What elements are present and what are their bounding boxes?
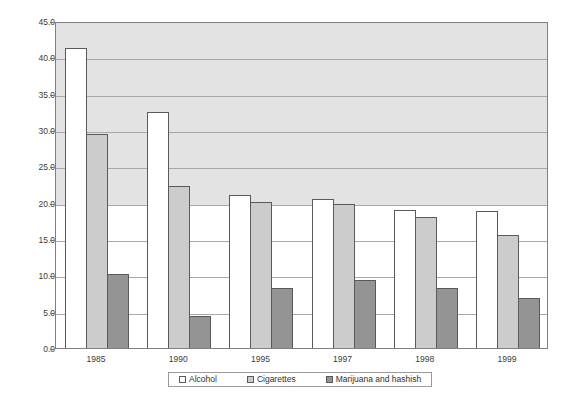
y-axis-tick-label: 10.0 xyxy=(11,272,55,281)
x-axis-tick-label: 1985 xyxy=(87,355,106,364)
y-axis-tick-label: 15.0 xyxy=(11,236,55,245)
y-axis-tick-mark xyxy=(50,22,54,23)
bar-group xyxy=(467,23,548,348)
bar xyxy=(86,134,108,348)
x-axis-tick-label: 1990 xyxy=(169,355,188,364)
legend-label: Marijuana and hashish xyxy=(336,375,422,384)
y-axis-tick-label: 45.0 xyxy=(11,18,55,27)
bar-group xyxy=(220,23,302,348)
legend-swatch-icon xyxy=(247,376,254,383)
bar xyxy=(147,112,169,348)
y-axis-tick-label: 20.0 xyxy=(11,200,55,209)
bar xyxy=(189,316,211,348)
bar xyxy=(168,186,190,348)
x-axis-tick-label: 1995 xyxy=(251,355,270,364)
bar xyxy=(333,204,355,348)
bar xyxy=(497,235,519,348)
legend-item[interactable]: Marijuana and hashish xyxy=(326,375,422,384)
y-axis-tick-mark xyxy=(50,349,54,350)
chart-legend: AlcoholCigarettesMarijuana and hashish xyxy=(168,372,432,387)
y-axis-tick-label: 40.0 xyxy=(11,54,55,63)
bar-group xyxy=(303,23,385,348)
y-axis-tick-mark xyxy=(50,204,54,205)
legend-swatch-icon xyxy=(326,376,333,383)
bar xyxy=(312,199,334,348)
y-axis-tick-mark xyxy=(50,95,54,96)
y-axis-tick-label: 30.0 xyxy=(11,127,55,136)
bar xyxy=(107,274,129,348)
y-axis-tick-mark xyxy=(50,58,54,59)
x-axis-tick-label: 1999 xyxy=(497,355,516,364)
legend-item[interactable]: Alcohol xyxy=(179,375,217,384)
bar xyxy=(415,217,437,348)
legend-swatch-icon xyxy=(179,376,186,383)
bar xyxy=(476,211,498,348)
x-axis-tick-label: 1997 xyxy=(333,355,352,364)
legend-label: Cigarettes xyxy=(257,375,296,384)
bar-group xyxy=(385,23,467,348)
y-axis-tick-mark xyxy=(50,131,54,132)
bar-chart: 0.05.010.015.020.025.030.035.040.045.0 1… xyxy=(0,0,562,404)
y-axis-tick-label: 25.0 xyxy=(11,163,55,172)
bar xyxy=(250,202,272,348)
bar xyxy=(354,280,376,348)
legend-item[interactable]: Cigarettes xyxy=(247,375,296,384)
legend-label: Alcohol xyxy=(189,375,217,384)
y-axis-tick-mark xyxy=(50,276,54,277)
bars-layer xyxy=(56,23,547,348)
y-axis-tick-mark xyxy=(50,240,54,241)
y-axis-tick-label: 35.0 xyxy=(11,91,55,100)
bar xyxy=(436,288,458,348)
y-axis-tick-mark xyxy=(50,313,54,314)
bar xyxy=(394,210,416,348)
x-axis-tick-label: 1998 xyxy=(415,355,434,364)
y-axis-tick-label: 0.0 xyxy=(11,345,55,354)
bar xyxy=(65,48,87,348)
y-axis-tick-mark xyxy=(50,167,54,168)
bar-group xyxy=(56,23,138,348)
y-axis: 0.05.010.015.020.025.030.035.040.045.0 xyxy=(0,22,55,349)
bar xyxy=(518,298,540,348)
bar-group xyxy=(138,23,220,348)
x-axis: 198519901995199719981999 xyxy=(55,350,548,368)
y-axis-tick-label: 5.0 xyxy=(11,309,55,318)
plot-area xyxy=(55,22,548,349)
bar xyxy=(271,288,293,348)
bar xyxy=(229,195,251,348)
chart-title xyxy=(0,0,562,2)
